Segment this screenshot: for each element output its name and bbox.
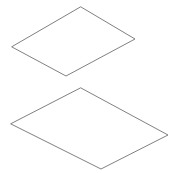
parallelograms-figure (0, 0, 177, 173)
figure-canvas (0, 0, 177, 173)
canvas-background (0, 0, 177, 173)
